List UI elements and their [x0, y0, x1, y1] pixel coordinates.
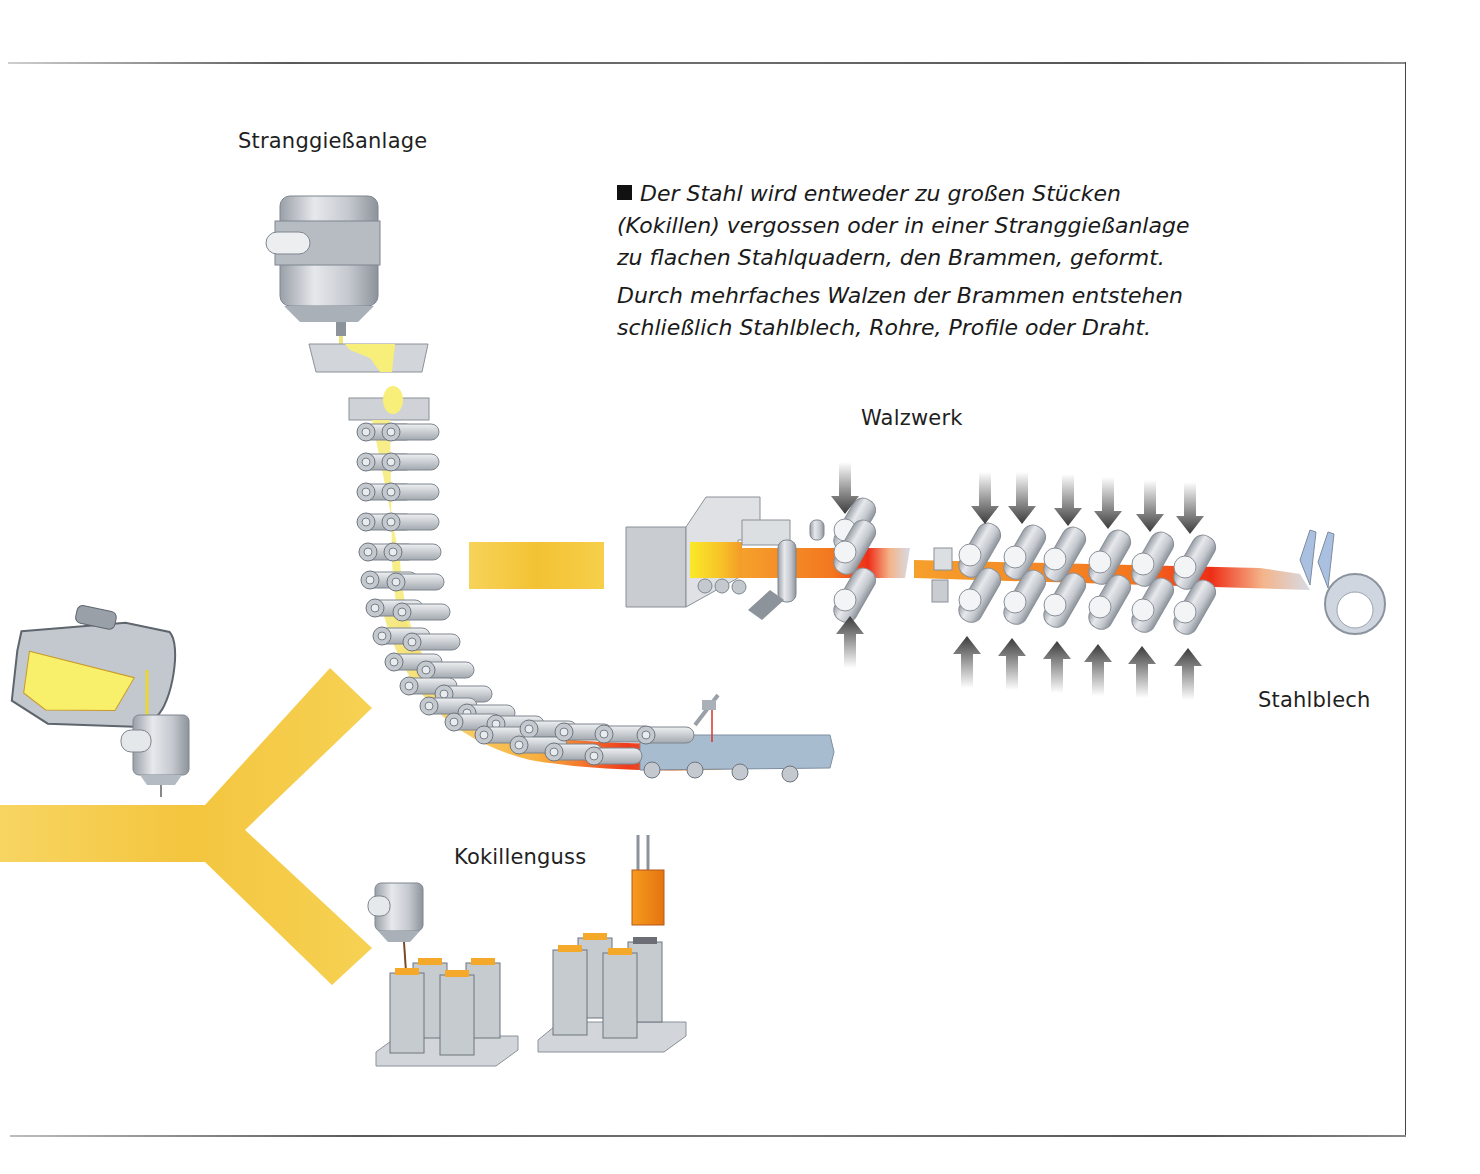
- finishing-stands: [953, 472, 1220, 700]
- caster-mould: [309, 344, 429, 420]
- label-rolling-mill: Walzwerk: [861, 406, 963, 430]
- stripped-ingot: [632, 835, 664, 925]
- label-ingot-casting: Kokillenguss: [454, 845, 586, 869]
- caption-paragraph-2: Durch mehrfaches Walzen der Brammen ents…: [617, 280, 1217, 344]
- flow-band-middle: [469, 542, 604, 589]
- label-steel-sheet: Stahlblech: [1258, 688, 1371, 712]
- caption-block: Der Stahl wird entweder zu großen Stücke…: [617, 178, 1217, 344]
- process-illustration: [0, 0, 1480, 1174]
- black-square-icon: [617, 185, 632, 200]
- caster-ladle: [266, 196, 380, 346]
- ingot-moulds-left: [376, 958, 518, 1066]
- steel-coil: [1325, 574, 1385, 634]
- caption-paragraph-1: Der Stahl wird entweder zu großen Stücke…: [617, 181, 1189, 270]
- label-continuous-casting: Stranggießanlage: [238, 129, 427, 153]
- ingot-moulds-right: [538, 933, 686, 1052]
- ingot-ladle: [368, 883, 423, 972]
- shear: [1300, 530, 1334, 588]
